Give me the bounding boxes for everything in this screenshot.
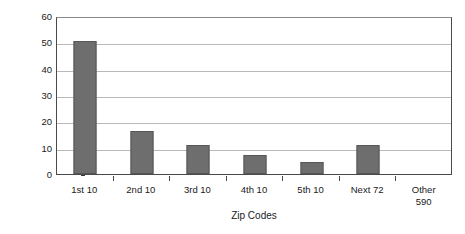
x-axis-tick-label-line: 3rd 10 [169, 184, 226, 196]
x-axis-tick-mark [113, 176, 114, 181]
bar[interactable] [243, 155, 266, 174]
x-axis-tick-label-line: 2nd 10 [113, 184, 170, 196]
bar[interactable] [187, 145, 210, 174]
bar-slot [57, 18, 114, 174]
x-axis-tick-label: 2nd 10 [113, 184, 170, 196]
y-axis-tick-label: 40 [26, 65, 52, 75]
x-axis-tick-label-line: Next 72 [339, 184, 396, 196]
bar-slot [283, 18, 340, 174]
y-axis-tick-mark [81, 175, 85, 176]
x-axis-tick-label: 3rd 10 [169, 184, 226, 196]
x-axis-tick-label: 1st 10 [56, 184, 113, 196]
bars-layer [57, 18, 451, 174]
y-axis-tick-label: 50 [26, 38, 52, 48]
bar[interactable] [357, 145, 380, 174]
bar[interactable] [130, 131, 153, 174]
bar-slot [114, 18, 171, 174]
bar-slot [340, 18, 397, 174]
y-axis-tick-label: 30 [26, 91, 52, 101]
x-axis-tick-label: 5th 10 [282, 184, 339, 196]
bar[interactable] [300, 162, 323, 174]
x-axis-tick-label: Other590 [395, 184, 452, 208]
bar-slot [227, 18, 284, 174]
bar-slot [396, 18, 453, 174]
x-axis-tick-mark [169, 176, 170, 181]
x-axis-tick-label: 4th 10 [226, 184, 283, 196]
x-axis-tick-label-line: 1st 10 [56, 184, 113, 196]
y-axis-tick-label: 0 [26, 170, 52, 180]
y-axis-tick-label: 10 [26, 144, 52, 154]
y-axis-tick-label: 60 [26, 12, 52, 22]
bar[interactable] [74, 41, 97, 174]
x-axis-tick-mark [339, 176, 340, 181]
x-axis-title: Zip Codes [56, 210, 452, 221]
x-axis-tick-label-line: 4th 10 [226, 184, 283, 196]
plot-area [56, 17, 452, 175]
x-axis-tick-mark [395, 176, 396, 181]
bar-slot [170, 18, 227, 174]
x-axis-tick-label-line: 5th 10 [282, 184, 339, 196]
bar-chart-figure: Percent of MA Phase I Awards 01020304050… [0, 0, 465, 234]
y-axis-tick-labels: 0102030405060 [26, 17, 52, 175]
x-axis-tick-mark [226, 176, 227, 181]
x-axis-tick-mark [282, 176, 283, 181]
x-axis-tick-label-line: 590 [395, 196, 452, 208]
x-axis-tick-label-line: Other [395, 184, 452, 196]
y-axis-tick-label: 20 [26, 117, 52, 127]
x-axis-tick-label: Next 72 [339, 184, 396, 196]
